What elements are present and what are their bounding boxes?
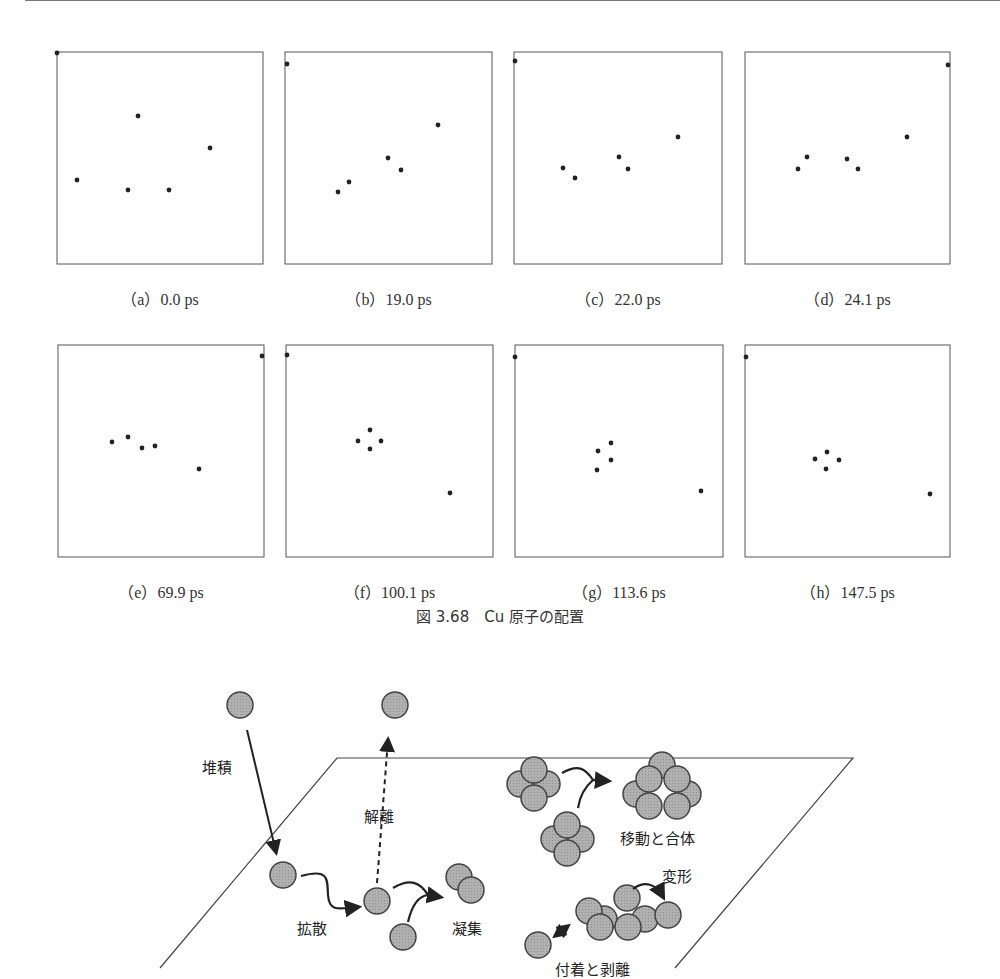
aggregation-arrow-b	[408, 895, 440, 922]
aggregation-arrow-a	[393, 882, 428, 895]
label-deformation: 変形	[662, 865, 692, 886]
label-desorption: 解離	[364, 805, 394, 826]
atom-detached	[525, 932, 551, 958]
cluster-small-1	[507, 757, 560, 811]
deposition-arrow	[247, 730, 276, 852]
label-diffusion: 拡散	[297, 917, 327, 938]
cluster-deforming	[576, 885, 681, 940]
coalescence-arrow-a	[562, 768, 593, 780]
atom-incoming	[227, 692, 253, 718]
surface-process-diagram	[0, 0, 1000, 979]
substrate-plane	[160, 758, 853, 968]
label-migration-coalescence: 移動と合体	[620, 827, 695, 848]
label-aggregation: 凝集	[452, 917, 482, 938]
coalescence-arrow-b	[578, 780, 608, 808]
diffusion-arrow	[301, 873, 358, 908]
atom-lone	[390, 924, 416, 950]
atom-desorbed	[382, 692, 408, 718]
label-deposition: 堆積	[202, 756, 232, 777]
cluster-atom	[458, 877, 484, 903]
attachment-arrow	[555, 926, 568, 936]
label-attachment-detachment: 付着と剥離	[551, 958, 634, 979]
cluster-merged	[623, 752, 701, 819]
cluster-small-2	[541, 812, 594, 866]
atom-adsorbed	[270, 862, 296, 888]
atom-diffusing	[364, 888, 390, 914]
